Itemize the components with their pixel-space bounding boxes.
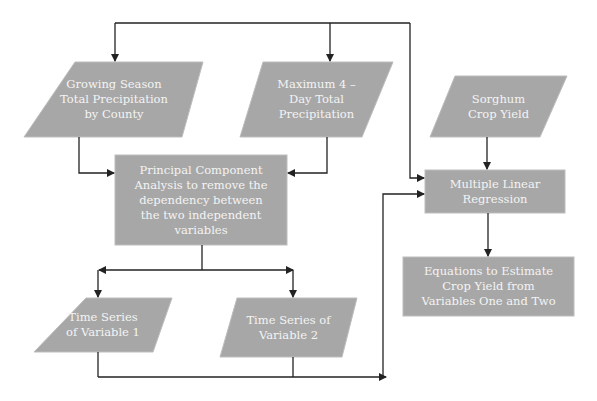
node-ts1: Time Series of Variable 1 xyxy=(34,298,172,352)
node-pca: Principal Component Analysis to remove t… xyxy=(115,155,287,245)
mlr-label: Multiple Linear Regression xyxy=(450,177,541,207)
equations-label: Equations to Estimate Crop Yield from Va… xyxy=(421,264,555,309)
ts1-label: Time Series of Variable 1 xyxy=(66,310,140,340)
node-max-4day: Maximum 4 – Day Total Precipitation xyxy=(240,62,393,137)
arrow-growing-to-pca xyxy=(79,137,114,173)
max-4day-label: Maximum 4 – Day Total Precipitation xyxy=(277,77,355,122)
pca-label: Principal Component Analysis to remove t… xyxy=(134,163,267,238)
node-ts2: Time Series of Variable 2 xyxy=(220,298,357,357)
node-sorghum: Sorghum Crop Yield xyxy=(430,76,567,137)
node-mlr: Multiple Linear Regression xyxy=(425,170,565,213)
ts2-label: Time Series of Variable 2 xyxy=(246,313,330,343)
node-equations: Equations to Estimate Crop Yield from Va… xyxy=(403,257,574,316)
arrow-max-to-pca xyxy=(288,137,327,173)
node-growing-season: Growing Season Total Precipitation by Co… xyxy=(24,62,204,137)
growing-season-label: Growing Season Total Precipitation by Co… xyxy=(60,77,168,122)
arrow-top-to-mlr xyxy=(410,23,424,178)
sorghum-label: Sorghum Crop Yield xyxy=(468,92,529,122)
